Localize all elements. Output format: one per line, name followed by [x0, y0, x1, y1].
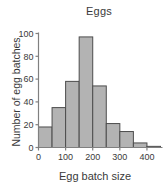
x-tick-label: 200: [85, 152, 100, 162]
y-tick-label: 20: [23, 120, 33, 130]
histogram-bar: [93, 86, 107, 148]
x-tick-label: 100: [58, 152, 73, 162]
histogram-bar: [66, 81, 80, 147]
histogram-bar: [79, 37, 93, 148]
histogram-bar: [120, 132, 134, 148]
x-tick-group: 0100200300400: [36, 148, 154, 162]
y-tick-label: 40: [23, 97, 33, 107]
bars-group: [39, 37, 161, 148]
y-tick-label: 100: [18, 29, 33, 39]
histogram-bar: [39, 127, 53, 148]
y-tick-group: 020406080100: [18, 29, 38, 153]
y-tick-label: 60: [23, 74, 33, 84]
y-tick-label: 80: [23, 52, 33, 62]
x-tick-label: 400: [139, 152, 154, 162]
x-tick-label: 0: [36, 152, 41, 162]
histogram-plot: 0100200300400 020406080100: [0, 0, 166, 190]
chart-figure: Eggs Number of egg batches Egg batch siz…: [0, 0, 166, 190]
histogram-bar: [106, 124, 120, 148]
y-tick-label: 0: [28, 143, 33, 153]
histogram-bar: [52, 108, 66, 148]
x-tick-label: 300: [112, 152, 127, 162]
histogram-bar: [133, 143, 147, 148]
